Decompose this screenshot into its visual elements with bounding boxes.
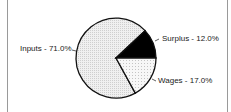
label-surplus: Surplus - 12.0% [162,34,219,44]
leader-surplus [155,39,159,41]
label-wages: Wages - 17.0% [158,76,212,86]
leader-wages [152,79,156,81]
leader-inputs [72,50,76,51]
pie-chart [0,0,231,112]
label-inputs: Inputs - 71.0% [20,44,72,54]
